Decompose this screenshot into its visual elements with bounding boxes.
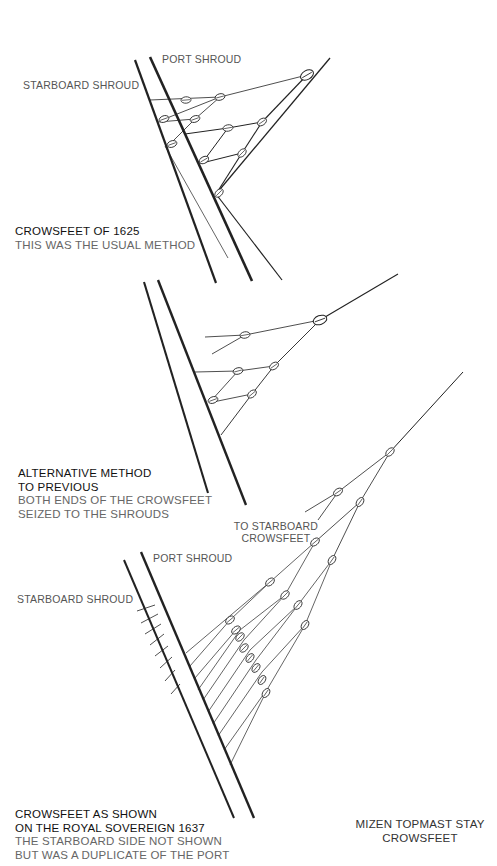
caption-alternative-sub-1: BOTH ENDS OF THE CROWSFEET xyxy=(18,494,212,508)
mizen-stay-line xyxy=(390,372,463,452)
port-shroud-line xyxy=(141,552,254,818)
caption-alternative: ALTERNATIVE METHOD TO PREVIOUS BOTH ENDS… xyxy=(18,467,212,521)
caption-rs-sub-1: THE STARBOARD SIDE NOT SHOWN xyxy=(15,835,230,849)
caption-1625-subtitle: THIS WAS THE USUAL METHOD xyxy=(15,239,195,253)
caption-rs-sub-2: BUT WAS A DUPLICATE OF THE PORT xyxy=(15,849,230,863)
to-starboard-crowsfeet-label: TO STARBOARD CROWSFEET xyxy=(226,520,326,544)
caption-mizen-topmast: MIZEN TOPMAST STAY CROWSFEET xyxy=(345,818,495,845)
to-starboard-line-1: TO STARBOARD xyxy=(226,520,326,532)
crowsfeet-drawing xyxy=(0,0,497,866)
starboard-shroud-label-1: STARBOARD SHROUD xyxy=(23,79,139,91)
starboard-shroud-line xyxy=(144,282,208,493)
port-shroud-label-3: PORT SHROUD xyxy=(153,552,232,564)
to-starboard-line-2: CROWSFEET xyxy=(226,532,326,544)
port-shroud-label-1: PORT SHROUD xyxy=(162,53,241,65)
caption-mizen-2: CROWSFEET xyxy=(345,832,495,846)
caption-alternative-title-2: TO PREVIOUS xyxy=(18,481,212,495)
caption-rs-title-1: CROWSFEET AS SHOWN xyxy=(15,808,230,822)
caption-royal-sovereign: CROWSFEET AS SHOWN ON THE ROYAL SOVEREIG… xyxy=(15,808,230,862)
starboard-shroud-label-3: STARBOARD SHROUD xyxy=(17,593,133,605)
stay-line xyxy=(320,274,398,320)
diagram-royal-sovereign xyxy=(124,372,463,818)
starboard-shroud-line xyxy=(124,560,234,818)
caption-1625: CROWSFEET OF 1625 THIS WAS THE USUAL MET… xyxy=(15,225,195,252)
caption-alternative-sub-2: SEIZED TO THE SHROUDS xyxy=(18,508,212,522)
caption-mizen-1: MIZEN TOPMAST STAY xyxy=(345,818,495,832)
caption-1625-title: CROWSFEET OF 1625 xyxy=(15,225,195,239)
caption-alternative-title-1: ALTERNATIVE METHOD xyxy=(18,467,212,481)
caption-rs-title-2: ON THE ROYAL SOVEREIGN 1637 xyxy=(15,822,230,836)
stay-line xyxy=(216,58,330,194)
